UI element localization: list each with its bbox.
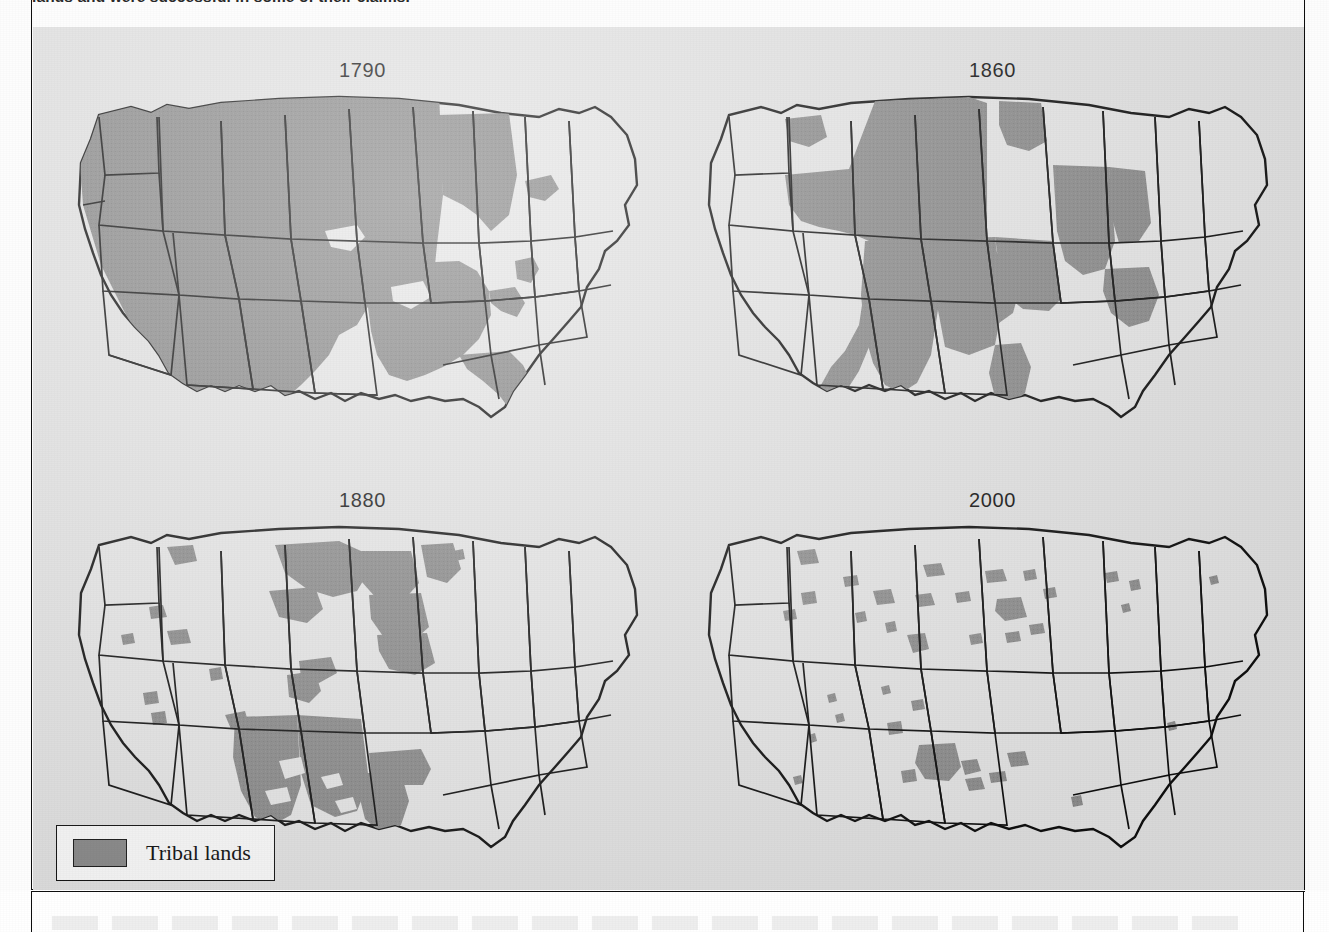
map-panel-1860: 1860: [669, 37, 1289, 457]
map-panel-1790: 1790: [39, 37, 659, 457]
map-panel-2000: 2000: [669, 467, 1289, 887]
legend-label-tribal-lands: Tribal lands: [146, 840, 251, 866]
map-legend: Tribal lands: [56, 825, 275, 881]
figure-right-rule-lower: [1303, 891, 1304, 932]
us-map-1790: [39, 55, 659, 450]
us-map-1880: [39, 485, 659, 880]
us-map-2000: [669, 485, 1289, 880]
page-body-text-ghost: [52, 916, 1252, 930]
figure-page: lands and were successful in some of the…: [0, 0, 1329, 932]
figure-bottom-rule: [31, 891, 1305, 892]
maps-panel: 1790: [33, 27, 1304, 890]
us-map-1860: [669, 55, 1289, 450]
map-panel-1880: 1880: [39, 467, 659, 887]
figure-left-rule-lower: [31, 891, 32, 932]
legend-swatch-tribal-lands: [73, 839, 127, 867]
